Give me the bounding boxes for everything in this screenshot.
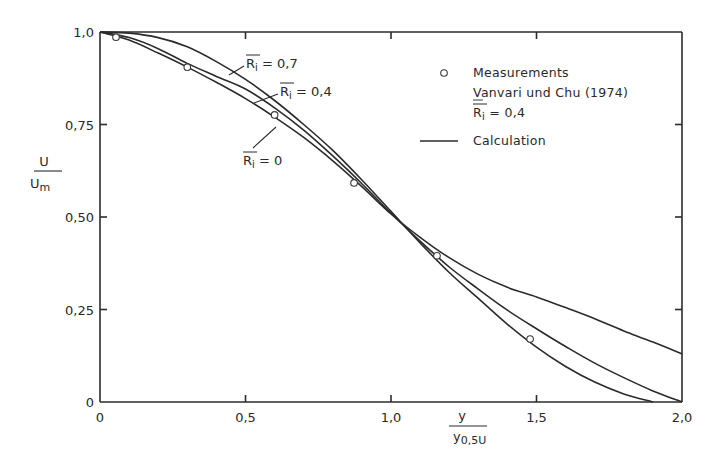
measurement-point [434,253,441,260]
x-tick-label: 1,5 [526,410,547,425]
legend: Measurements Vanvari und Chu (1974) Ri =… [420,65,628,148]
x-tick-label: 2,0 [672,410,693,425]
legend-measurements: Measurements [473,65,569,80]
y-axis-label: U Um [30,154,62,194]
label-ri-0: Ri = 0 [243,153,282,170]
measurement-markers [113,34,534,343]
measurement-point [527,336,534,343]
x-tick-label: 1,0 [381,410,402,425]
measurement-point [271,112,278,119]
measurement-point [113,34,120,41]
y-tick-label: 1,0 [73,25,94,40]
label-ri-07: Ri = 0,7 [246,56,298,73]
x-tick-label: 0,5 [235,410,256,425]
measurement-point [351,180,358,187]
x-label-numerator: y [458,408,466,423]
velocity-profile-chart: 00,51,01,52,000,250,500,751,0 U Um y y0,… [0,0,724,468]
leader-ri-0 [253,127,276,148]
legend-source: Vanvari und Chu (1974) [473,85,628,100]
y-tick-label: 0,50 [65,210,94,225]
y-tick-label: 0,25 [65,303,94,318]
x-tick-label: 0 [96,410,104,425]
x-axis-label: y y0,5U [449,408,487,447]
y-label-numerator: U [39,154,49,169]
legend-open-circle-icon [441,70,448,77]
legend-ri: Ri = 0,4 [473,105,525,122]
measurement-point [184,64,191,71]
curve-series-2 [100,32,682,354]
y-label-denominator: Um [30,176,50,194]
x-label-denominator: y0,5U [453,429,486,447]
label-ri-04: Ri = 0,4 [280,84,332,101]
legend-calculation: Calculation [473,133,546,148]
y-tick-label: 0 [86,395,94,410]
y-tick-label: 0,75 [65,118,94,133]
